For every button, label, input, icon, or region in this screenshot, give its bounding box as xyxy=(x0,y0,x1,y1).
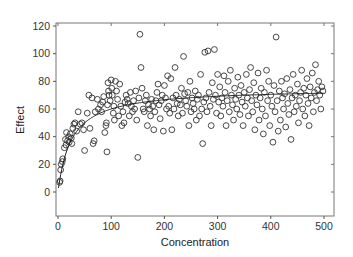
data-point xyxy=(58,167,64,173)
data-point xyxy=(264,67,270,73)
data-point xyxy=(297,98,303,104)
data-point xyxy=(169,127,175,133)
data-point xyxy=(120,109,126,115)
data-point xyxy=(265,98,271,104)
data-point xyxy=(251,80,257,86)
data-point xyxy=(184,103,190,109)
data-point xyxy=(155,81,161,87)
data-point xyxy=(114,88,120,94)
data-point xyxy=(252,127,258,133)
data-point xyxy=(223,123,229,129)
data-point xyxy=(296,120,302,126)
data-point xyxy=(87,125,93,131)
data-point xyxy=(183,98,189,104)
data-point xyxy=(255,70,261,76)
data-point xyxy=(309,70,315,76)
data-point xyxy=(221,73,227,79)
data-point xyxy=(172,65,178,71)
data-point xyxy=(304,76,310,82)
y-tick-label: 80 xyxy=(38,75,50,87)
data-point xyxy=(244,95,250,101)
data-point xyxy=(275,128,281,134)
data-point xyxy=(139,85,145,91)
data-point xyxy=(186,123,192,129)
data-point xyxy=(299,67,305,73)
data-point xyxy=(277,117,283,123)
data-point xyxy=(102,130,108,136)
data-point xyxy=(157,116,163,122)
data-point xyxy=(181,54,187,60)
data-point xyxy=(218,113,224,119)
data-point xyxy=(179,85,185,91)
data-point xyxy=(192,88,198,94)
data-point xyxy=(206,90,212,96)
data-point xyxy=(81,127,87,133)
data-point xyxy=(208,123,214,129)
data-point xyxy=(273,34,279,40)
y-tick-label: 0 xyxy=(44,186,50,198)
data-point xyxy=(133,88,139,94)
data-point xyxy=(123,92,129,98)
data-point xyxy=(259,106,265,112)
data-point xyxy=(225,78,231,84)
x-tick-label: 200 xyxy=(156,220,174,232)
data-point xyxy=(214,110,220,116)
data-point xyxy=(144,123,150,129)
data-point xyxy=(267,123,273,129)
y-axis: 020406080100120 xyxy=(32,20,56,198)
data-point xyxy=(274,98,280,104)
data-point xyxy=(162,83,168,89)
data-point xyxy=(247,87,253,93)
data-point xyxy=(231,117,237,123)
data-point xyxy=(263,113,269,119)
x-tick-label: 100 xyxy=(102,220,120,232)
data-point xyxy=(180,110,186,116)
data-point xyxy=(305,101,311,107)
data-point xyxy=(295,81,301,87)
data-point xyxy=(266,78,272,84)
data-point xyxy=(199,106,205,112)
data-point xyxy=(237,112,243,118)
data-point xyxy=(198,72,204,78)
data-point xyxy=(152,109,158,115)
data-point xyxy=(301,85,307,91)
data-point xyxy=(300,106,306,112)
y-tick-label: 40 xyxy=(38,130,50,142)
data-point xyxy=(143,92,149,98)
y-tick-label: 120 xyxy=(32,20,50,32)
data-point xyxy=(204,109,210,115)
data-point xyxy=(239,99,245,105)
data-point xyxy=(286,112,292,118)
plot-frame xyxy=(56,23,334,216)
data-point xyxy=(314,98,320,104)
data-point xyxy=(200,141,206,147)
data-point xyxy=(232,85,238,91)
data-points xyxy=(57,31,326,185)
data-point xyxy=(110,110,116,116)
data-point xyxy=(250,109,256,115)
data-point xyxy=(276,88,282,94)
x-tick-label: 500 xyxy=(315,220,333,232)
data-point xyxy=(84,110,90,116)
data-point xyxy=(271,83,277,89)
data-point xyxy=(248,65,254,71)
data-point xyxy=(107,98,113,104)
data-point xyxy=(270,139,276,145)
x-tick-label: 0 xyxy=(55,220,61,232)
data-point xyxy=(243,72,249,78)
data-point xyxy=(269,103,275,109)
data-point xyxy=(193,117,199,123)
data-point xyxy=(101,94,107,100)
data-point xyxy=(238,83,244,89)
data-point xyxy=(290,72,296,78)
data-point xyxy=(313,62,319,68)
data-point xyxy=(94,96,100,102)
data-point xyxy=(242,103,248,109)
data-point xyxy=(318,106,324,112)
data-point xyxy=(285,101,291,107)
fit-curve xyxy=(59,93,324,188)
data-point xyxy=(131,98,137,104)
data-point xyxy=(272,109,278,115)
data-point xyxy=(302,113,308,119)
data-point xyxy=(284,76,290,82)
